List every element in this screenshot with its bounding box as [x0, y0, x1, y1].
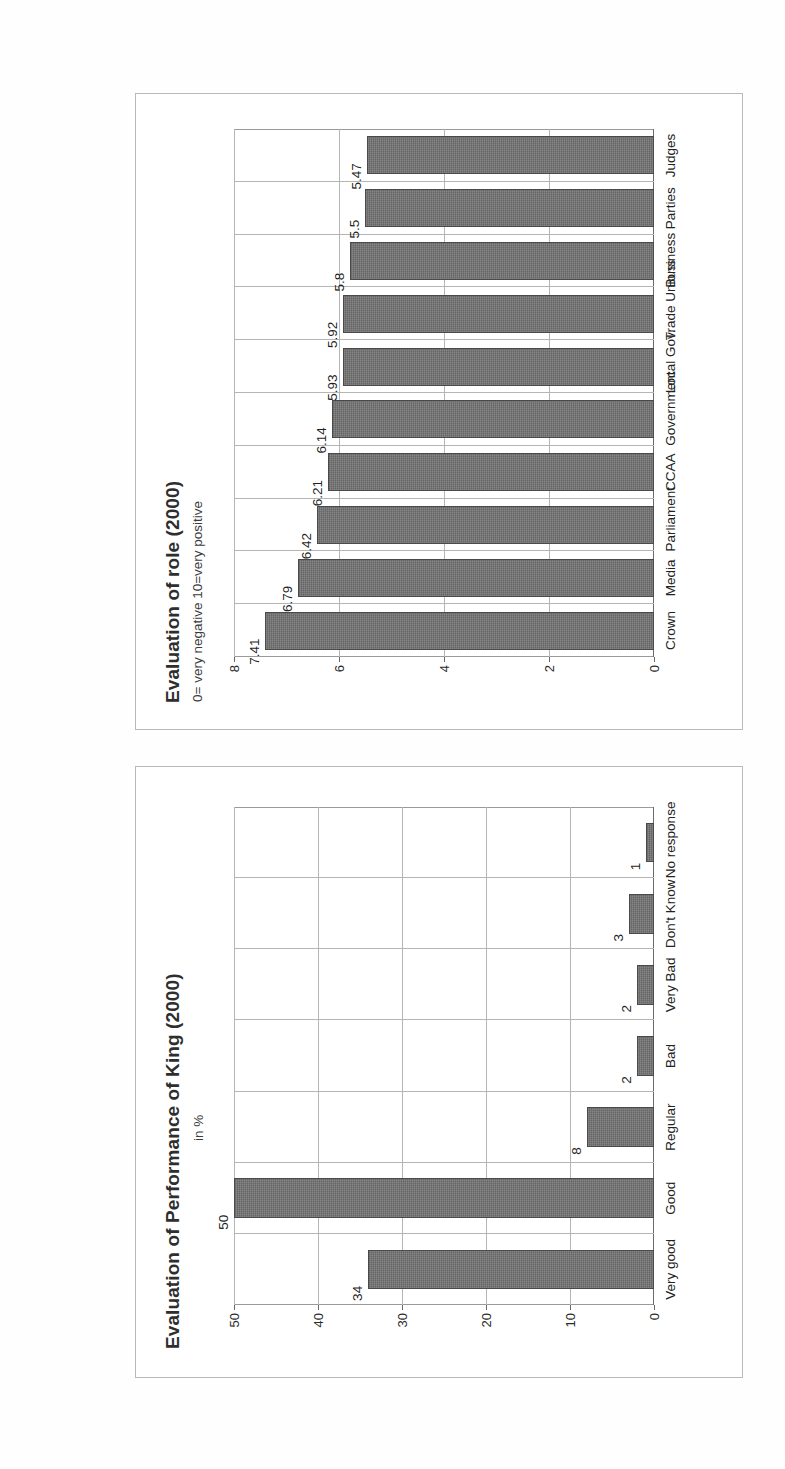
x-category-label: Government: [663, 393, 678, 446]
bar-value-label: 5.47: [348, 163, 363, 189]
x-category-label: Bad: [663, 1020, 678, 1091]
gridline-horizontal: [317, 807, 318, 1305]
bar: [264, 611, 653, 649]
bar: [637, 964, 654, 1004]
gridline-vertical: [234, 392, 654, 393]
chart-title-role: Evaluation of role (2000): [162, 480, 184, 702]
gridline-vertical: [234, 1091, 654, 1092]
bar: [365, 189, 654, 227]
gridline-vertical: [234, 550, 654, 551]
y-tick-mark: [317, 1305, 318, 1310]
bar: [637, 1036, 654, 1076]
y-tick-label: 0: [646, 1313, 661, 1351]
y-tick-label: 8: [226, 665, 241, 703]
gridline-vertical: [234, 603, 654, 604]
y-tick-mark: [569, 1305, 570, 1310]
bar: [366, 136, 653, 174]
x-category-label: Good: [663, 1162, 678, 1233]
y-tick-label: 2: [541, 665, 556, 703]
gridline-vertical: [234, 286, 654, 287]
bar-value-label: 7.41: [246, 638, 261, 664]
gridline-vertical: [234, 339, 654, 340]
bar: [628, 893, 653, 933]
bar: [297, 558, 653, 596]
chart-panel-king: Evaluation of Performance of King (2000)…: [135, 766, 743, 1378]
scanned-page: Evaluation of Performance of King (2000)…: [0, 0, 785, 1469]
y-tick-mark: [653, 1305, 654, 1310]
gridline-vertical: [234, 948, 654, 949]
y-tick-mark: [653, 657, 654, 662]
bar-value-label: 6.14: [313, 427, 328, 453]
x-category-label: Trade Unions: [663, 287, 678, 340]
y-tick-mark: [485, 1305, 486, 1310]
gridline-horizontal: [485, 807, 486, 1305]
x-category-label: Crown: [663, 604, 678, 657]
bar-value-label: 50: [216, 1214, 231, 1229]
gridline-vertical: [234, 445, 654, 446]
gridline-vertical: [234, 234, 654, 235]
y-tick-mark: [548, 657, 549, 662]
gridline-horizontal: [569, 807, 570, 1305]
bar: [368, 1249, 654, 1289]
bar-value-label: 2: [619, 1005, 634, 1013]
y-tick-label: 50: [226, 1313, 241, 1351]
x-category-label: CCAA: [663, 445, 678, 498]
x-category-label: Local Gov.: [663, 340, 678, 393]
x-category-label: Regular: [663, 1091, 678, 1162]
x-category-label: Very Bad: [663, 949, 678, 1020]
bar: [331, 400, 653, 438]
gridline-vertical: [234, 1162, 654, 1163]
x-category-label: Parties: [663, 181, 678, 234]
bar-value-label: 5.5: [347, 219, 362, 238]
bar: [343, 294, 654, 332]
bar-value-label: 8: [568, 1147, 583, 1155]
x-category-label: Don't Know: [663, 878, 678, 949]
x-category-label: Judges: [663, 129, 678, 182]
x-category-label: Very good: [663, 1233, 678, 1304]
chart-title-king: Evaluation of Performance of King (2000): [162, 973, 184, 1349]
y-tick-mark: [338, 657, 339, 662]
y-tick-label: 6: [331, 665, 346, 703]
plot-area-role: 024687.41Crown6.79Media6.42Parliament6.2…: [234, 129, 654, 657]
bar-value-label: 3: [610, 933, 625, 941]
bar: [316, 506, 653, 544]
y-tick-label: 30: [394, 1313, 409, 1351]
gridline-vertical: [234, 181, 654, 182]
y-tick-mark: [233, 657, 234, 662]
bar-value-label: 1: [627, 862, 642, 870]
gridline-vertical: [234, 1019, 654, 1020]
y-tick-label: 0: [646, 665, 661, 703]
gridline-vertical: [234, 498, 654, 499]
x-category-label: No response: [663, 807, 678, 878]
x-category-label: Media: [663, 551, 678, 604]
y-tick-label: 4: [436, 665, 451, 703]
bar: [349, 242, 654, 280]
gridline-vertical: [234, 1233, 654, 1234]
y-tick-label: 40: [310, 1313, 325, 1351]
y-tick-mark: [233, 1305, 234, 1310]
bar-value-label: 5.93: [324, 374, 339, 400]
bar: [586, 1107, 653, 1147]
gridline-vertical: [234, 877, 654, 878]
bar: [234, 1178, 654, 1218]
bar-value-label: 34: [350, 1285, 365, 1300]
y-tick-label: 20: [478, 1313, 493, 1351]
chart-panel-role: Evaluation of role (2000) 0= very negati…: [135, 93, 743, 730]
bar: [327, 453, 653, 491]
bar-value-label: 5.92: [325, 321, 340, 347]
chart-subtitle-king: in %: [191, 1114, 206, 1140]
y-tick-mark: [401, 1305, 402, 1310]
gridline-horizontal: [401, 807, 402, 1305]
chart-subtitle-role: 0= very negative 10=very positive: [190, 500, 205, 701]
bar-value-label: 6.79: [279, 585, 294, 611]
bar-value-label: 6.42: [298, 532, 313, 558]
bar-value-label: 5.8: [331, 272, 346, 291]
bar: [342, 347, 653, 385]
plot-border-king: [234, 807, 654, 1305]
plot-area-king: 0102030405034Very good50Good8Regular2Bad…: [234, 807, 654, 1305]
bar: [645, 822, 653, 862]
y-tick-label: 10: [562, 1313, 577, 1351]
bar-value-label: 6.21: [309, 480, 324, 506]
x-category-label: Parliament: [663, 498, 678, 551]
x-category-label: Business: [663, 234, 678, 287]
